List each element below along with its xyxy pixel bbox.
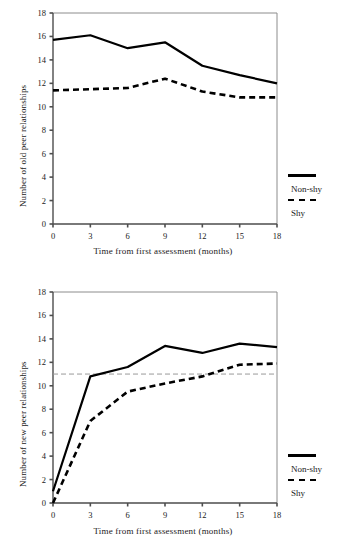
y-tick-label: 6	[42, 428, 46, 438]
legend-swatch-solid	[288, 174, 316, 177]
x-axis-title: Time from first assessment (months)	[48, 246, 278, 256]
legend-label-shy: Shy	[291, 208, 305, 218]
x-tick-label: 15	[235, 510, 244, 520]
legend-swatch-dashed	[288, 199, 316, 201]
x-axis-title: Time from first assessment (months)	[48, 526, 278, 536]
y-tick-label: 16	[38, 31, 47, 41]
x-tick-label: 18	[273, 231, 282, 241]
y-tick-label: 18	[38, 8, 47, 18]
x-tick-label: 6	[126, 510, 130, 520]
y-tick-label: 10	[38, 102, 47, 112]
line-chart-new-peer-relationships: 0246810121416180369121518	[0, 279, 355, 559]
y-tick-label: 2	[42, 196, 46, 206]
y-tick-label: 8	[42, 404, 46, 414]
y-tick-label: 14	[38, 334, 47, 344]
legend-swatch-solid	[288, 454, 316, 457]
x-tick-label: 9	[163, 231, 167, 241]
y-tick-label: 6	[42, 149, 46, 159]
y-tick-label: 14	[38, 55, 47, 65]
y-tick-label: 18	[38, 287, 47, 297]
y-tick-label: 4	[42, 172, 47, 182]
x-tick-label: 9	[163, 510, 167, 520]
y-tick-label: 4	[42, 451, 47, 461]
series-line-non-shy	[53, 35, 277, 83]
x-tick-label: 18	[273, 510, 282, 520]
series-line-shy	[53, 79, 277, 98]
y-tick-label: 10	[38, 381, 47, 391]
y-tick-label: 0	[42, 219, 46, 229]
legend-label-non-shy: Non-shy	[291, 464, 322, 474]
x-tick-label: 3	[88, 231, 92, 241]
x-tick-label: 0	[51, 231, 55, 241]
y-tick-label: 12	[38, 357, 47, 367]
x-tick-label: 0	[51, 510, 55, 520]
x-tick-label: 12	[198, 510, 207, 520]
series-line-non-shy	[53, 344, 277, 492]
y-tick-label: 8	[42, 125, 46, 135]
legend-label-non-shy: Non-shy	[291, 184, 322, 194]
x-tick-label: 6	[126, 231, 130, 241]
y-tick-label: 0	[42, 498, 46, 508]
chart-panel-new-peer-relationships: 0246810121416180369121518 Number of new …	[0, 279, 355, 559]
y-axis-title: Number of new peer relationships	[18, 361, 28, 487]
y-axis-title: Number of old peer relationships	[18, 85, 28, 207]
x-tick-label: 12	[198, 231, 207, 241]
y-tick-label: 2	[42, 475, 46, 485]
chart-panel-old-peer-relationships: 0246810121416180369121518 Number of old …	[0, 0, 355, 279]
line-chart-old-peer-relationships: 0246810121416180369121518	[0, 0, 355, 279]
legend-label-shy: Shy	[291, 488, 305, 498]
y-tick-label: 16	[38, 310, 47, 320]
y-tick-label: 12	[38, 78, 47, 88]
x-tick-label: 15	[235, 231, 244, 241]
x-tick-label: 3	[88, 510, 92, 520]
legend-swatch-dashed	[288, 479, 316, 481]
